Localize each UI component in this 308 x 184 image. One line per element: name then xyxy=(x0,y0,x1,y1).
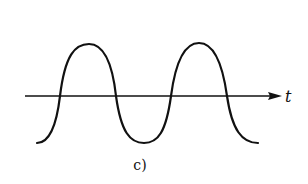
waveform-curve xyxy=(37,43,258,143)
axis-arrow-icon xyxy=(268,92,282,100)
waveform-diagram: t c) xyxy=(0,0,308,184)
axis-label-t: t xyxy=(285,87,292,106)
figure-caption: c) xyxy=(133,157,146,173)
